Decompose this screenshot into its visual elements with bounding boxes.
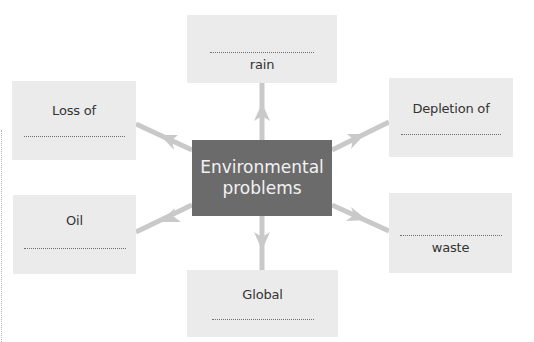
answer-blank[interactable] — [401, 134, 501, 135]
answer-blank[interactable] — [24, 248, 126, 249]
branch-label-before: Oil — [66, 213, 83, 228]
branch-box-upper-right: Depletion of — [389, 78, 513, 157]
branch-label-after: waste — [432, 240, 469, 255]
branch-box-top: rain — [187, 15, 337, 83]
branch-label-before: Depletion of — [412, 101, 489, 116]
branch-label-before: Loss of — [52, 103, 96, 118]
branch-box-bottom: Global — [187, 270, 338, 337]
branch-label-before: Global — [242, 287, 282, 302]
branch-label-after: rain — [250, 57, 274, 72]
central-topic: Environmental problems — [192, 140, 332, 216]
mind-map-diagram: rain Loss of Depletion of Environmental … — [0, 0, 534, 342]
answer-blank[interactable] — [212, 319, 314, 320]
branch-box-lower-right: waste — [389, 193, 512, 273]
central-topic-line-2: problems — [222, 178, 301, 199]
answer-blank[interactable] — [24, 136, 125, 137]
answer-blank[interactable] — [400, 235, 502, 236]
central-topic-line-1: Environmental — [200, 157, 324, 178]
branch-box-lower-left: Oil — [13, 195, 136, 274]
branch-box-upper-left: Loss of — [12, 81, 136, 160]
answer-blank[interactable] — [210, 52, 314, 53]
